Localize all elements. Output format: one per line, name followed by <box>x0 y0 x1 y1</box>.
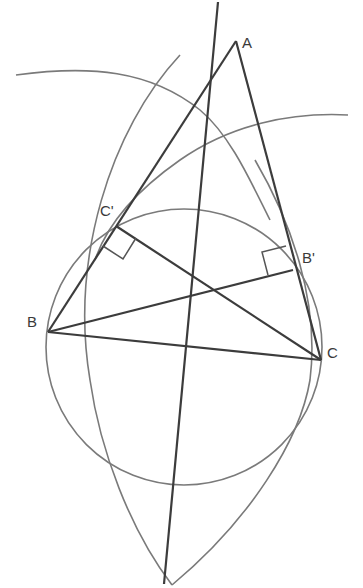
label-point-a: A <box>242 34 252 51</box>
label-point-b: B <box>27 313 37 330</box>
geometry-diagram: A B C C' B' <box>0 0 363 588</box>
altitude-a-line <box>164 2 218 584</box>
arc-left-large <box>16 71 270 220</box>
arc-right-lower <box>172 160 312 585</box>
label-point-b-prime: B' <box>302 249 315 266</box>
label-point-c: C <box>327 344 338 361</box>
label-point-c-prime: C' <box>100 202 114 219</box>
side-ab <box>48 41 236 332</box>
